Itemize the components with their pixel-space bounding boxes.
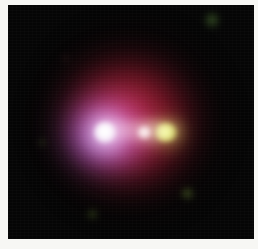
speck-bottom-right	[180, 187, 195, 200]
speck-mid-left	[36, 137, 48, 148]
image-page: compact nebula with three bright knots a…	[0, 0, 258, 249]
knot-a-white-nucleus	[94, 122, 116, 143]
knot-c-yellow-green	[155, 123, 177, 142]
speck-bottom-left	[86, 208, 99, 220]
astronomical-image-plate	[8, 5, 254, 239]
speck-top-right	[204, 11, 220, 29]
speck-top-left	[60, 53, 71, 63]
